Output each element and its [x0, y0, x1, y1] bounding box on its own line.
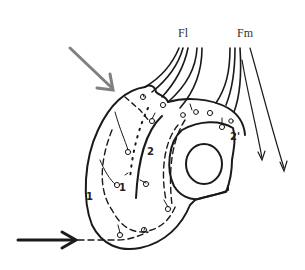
fiber-line: [168, 48, 197, 102]
label-region-1-inner: 1: [119, 182, 126, 193]
label-fm: Fm: [237, 26, 254, 40]
outer-outline: [86, 87, 228, 249]
fiber-line: [152, 48, 183, 92]
label-region-2-prime: 2': [230, 131, 240, 142]
dashed-boundary: [78, 232, 148, 240]
gray-arrow: [70, 48, 113, 90]
label-region-2: 2: [147, 146, 154, 157]
fiber-line: [216, 48, 230, 103]
label-region-1-outer: 1: [86, 191, 93, 202]
neurons: [100, 94, 233, 238]
inner-ring: [169, 122, 234, 199]
fiber-line: [250, 48, 284, 168]
diagram-canvas: Fl Fm 1 1 2 2': [0, 0, 305, 270]
fiber-line: [242, 60, 262, 158]
dashed-boundary: [102, 130, 176, 232]
black-arrow: [18, 232, 76, 248]
central-circle: [186, 144, 222, 184]
dashed-boundary: [125, 97, 150, 122]
label-fl: Fl: [178, 26, 189, 40]
